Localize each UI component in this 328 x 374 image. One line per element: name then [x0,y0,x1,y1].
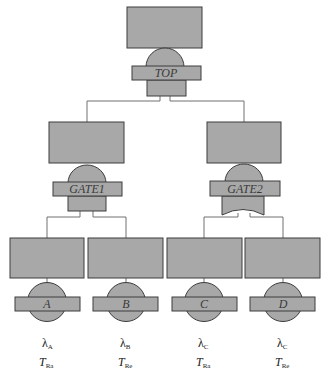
event-b-label: B [122,297,130,311]
event-parameters: λA λB λC λC TRa TRe TRa TRe [39,336,289,370]
top-event[interactable]: TOP [127,7,202,96]
rate-a: λA [42,336,53,351]
time-b: TRe [118,355,132,370]
fault-tree-diagram: TOP GATE1 GATE2 A B C [0,0,328,374]
connector-gate1-b [93,211,126,238]
rate-b: λB [120,336,131,351]
gate1-box[interactable] [49,122,124,163]
event-c-label: C [200,297,209,311]
gate1-label: GATE1 [69,182,105,196]
gate1[interactable]: GATE1 [49,122,124,211]
rate-d: λC [277,336,288,351]
event-d-label: D [278,297,288,311]
rate-c: λC [198,336,209,351]
connector-top-gate1 [87,96,160,122]
and-gate-icon [146,48,184,67]
time-c: TRa [196,355,211,370]
connector-gate2-c [204,213,238,238]
time-a: TRa [39,355,54,370]
event-a-label: A [42,297,51,311]
event-d-box[interactable] [245,238,320,278]
connector-gate1-a [47,211,80,238]
or-gate-icon [225,164,263,182]
top-event-box[interactable] [127,7,202,48]
gate2-box[interactable] [207,122,281,163]
connector-top-gate2 [170,96,244,122]
connector-gate2-d [250,213,283,238]
event-b-box[interactable] [88,238,163,278]
and-gate-icon [68,165,106,183]
time-d: TRe [275,355,289,370]
event-c-box[interactable] [167,238,242,278]
gate2-label: GATE2 [227,182,263,196]
top-label: TOP [155,66,178,80]
gate2[interactable]: GATE2 [207,122,281,215]
event-a-box[interactable] [10,238,84,278]
